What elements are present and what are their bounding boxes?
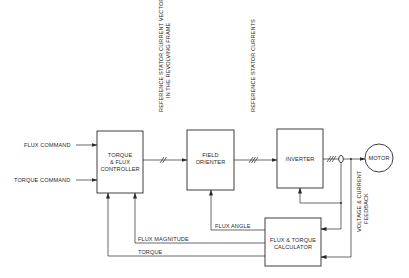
torque-label: TORQUE: [138, 249, 163, 255]
orienter-label-2: ORIENTER: [196, 159, 226, 165]
flux-torque-calculator-block: FLUX & TORQUE CALCULATOR: [265, 218, 321, 266]
inverter-feedback-line: [300, 188, 341, 203]
voltage-feedback-line: [321, 159, 351, 257]
flux-command-input: FLUX COMMAND: [24, 142, 97, 148]
motor-label: MOTOR: [368, 155, 389, 161]
svg-text:REFERENCE STATOR CURRENTS: REFERENCE STATOR CURRENTS: [250, 19, 256, 112]
feedback-label: VOLTAGE & CURRENT FEEDBACK: [356, 170, 369, 232]
calculator-label-2: CALCULATOR: [274, 244, 312, 250]
current-sensor-icon: [339, 155, 344, 162]
controller-label-2: & FLUX: [110, 159, 130, 165]
current-feedback-line: [321, 163, 341, 229]
controller-label-1: TORQUE: [108, 152, 133, 158]
orienter-label-1: FIELD: [202, 152, 218, 158]
ref-vector-label-1: REFERENCE STATOR CURRENT VECTOR: [158, 0, 164, 112]
flux-magnitude-label: FLUX MAGNITUDE: [138, 236, 189, 242]
ref-vector-label-2: IN THE REVOLVING FRAME: [165, 22, 171, 98]
controller-label-3: CONTROLLER: [100, 166, 139, 172]
inverter-block: INVERTER: [277, 129, 323, 188]
block-diagram: FLUX COMMAND TORQUE COMMAND TORQUE & FLU…: [0, 0, 409, 278]
motor-block: MOTOR: [365, 144, 393, 172]
torque-command-input: TORQUE COMMAND: [14, 177, 97, 183]
junction-node: [340, 202, 342, 204]
torque-command-label: TORQUE COMMAND: [14, 177, 70, 183]
feedback-label-2: FEEDBACK: [363, 193, 369, 224]
calculator-label-1: FLUX & TORQUE: [270, 237, 316, 243]
flux-command-label: FLUX COMMAND: [24, 142, 71, 148]
ref-vector-label: REFERENCE STATOR CURRENT VECTOR IN THE R…: [158, 0, 171, 112]
field-orienter-block: FIELD ORIENTER: [187, 130, 234, 190]
inverter-label: INVERTER: [286, 156, 315, 162]
feedback-label-1: VOLTAGE & CURRENT: [356, 170, 362, 232]
ref-currents-label: REFERENCE STATOR CURRENTS: [250, 19, 256, 112]
torque-flux-controller-block: TORQUE & FLUX CONTROLLER: [97, 131, 143, 193]
flux-angle-label: FLUX ANGLE: [215, 223, 251, 229]
